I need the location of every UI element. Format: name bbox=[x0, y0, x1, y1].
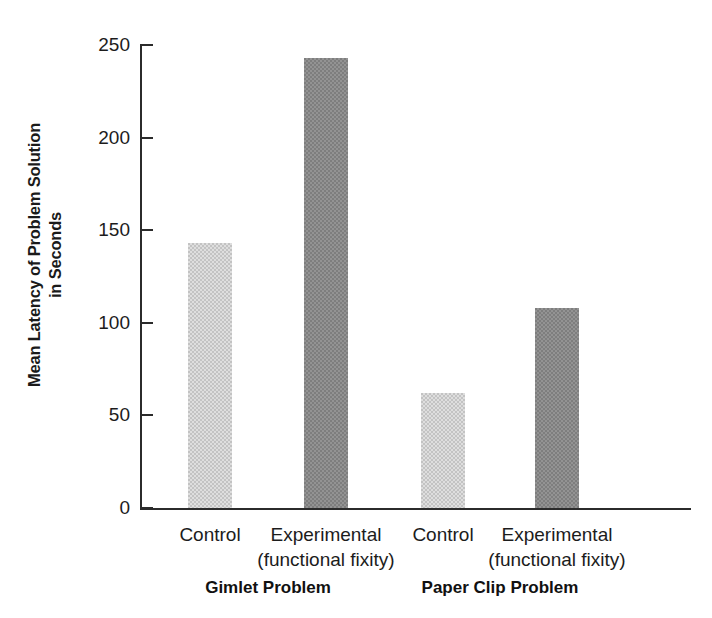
bar-chart: Mean Latency of Problem Solution in Seco… bbox=[0, 0, 712, 618]
bars-layer bbox=[0, 0, 712, 509]
bar-category-label-line-1: Control bbox=[412, 524, 473, 545]
group-label: Gimlet Problem bbox=[148, 578, 388, 598]
bar bbox=[421, 393, 465, 508]
bar-category-label-line-2: (functional fixity) bbox=[467, 547, 647, 572]
bar-category-label-line-1: Experimental bbox=[502, 524, 613, 545]
bar bbox=[535, 308, 579, 508]
bar-category-label: Experimental(functional fixity) bbox=[467, 522, 647, 572]
group-label: Paper Clip Problem bbox=[380, 578, 620, 598]
bar-category-label-line-1: Control bbox=[179, 524, 240, 545]
bar bbox=[304, 58, 348, 508]
bar bbox=[188, 243, 232, 508]
bar-category-label-line-2: (functional fixity) bbox=[236, 547, 416, 572]
